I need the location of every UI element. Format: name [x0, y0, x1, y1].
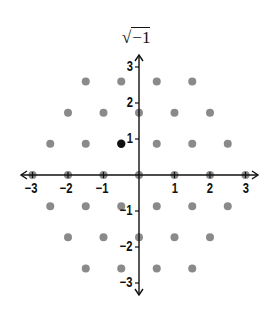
highlight-point-layer [117, 140, 125, 148]
axes [21, 55, 258, 295]
lattice-point [153, 265, 161, 273]
lattice-point [206, 109, 214, 117]
lattice-point [171, 233, 179, 241]
lattice-point [64, 233, 72, 241]
x-tick-label: −3 [24, 181, 37, 195]
lattice-point [153, 77, 161, 85]
x-tick-label: 3 [242, 181, 248, 195]
lattice-point [82, 265, 90, 273]
lattice-diagram: √−1 −3−2−1123321−1−2−3 [0, 0, 275, 318]
lattice-point [188, 202, 196, 210]
lattice-point [46, 202, 54, 210]
lattice-point [100, 109, 108, 117]
lattice-point [188, 265, 196, 273]
lattice-point [206, 233, 214, 241]
y-tick-label: 3 [127, 59, 133, 73]
lattice-point [153, 202, 161, 210]
highlight-point [117, 140, 125, 148]
x-tick-label: −1 [95, 181, 108, 195]
lattice-point [224, 140, 232, 148]
lattice-point [82, 202, 90, 210]
x-tick-label: 2 [207, 181, 213, 195]
x-tick-label: −2 [60, 181, 73, 195]
lattice-point [224, 202, 232, 210]
lattice-point [153, 140, 161, 148]
lattice-point [82, 77, 90, 85]
lattice-point [100, 233, 108, 241]
y-tick-label: 2 [127, 95, 133, 109]
lattice-point [117, 265, 125, 273]
lattice-point [82, 140, 90, 148]
lattice-point [46, 140, 54, 148]
complex-plane-plot [0, 0, 275, 318]
lattice-point [188, 77, 196, 85]
x-tick-label: 1 [171, 181, 177, 195]
y-tick-label: 1 [127, 131, 133, 145]
lattice-point [171, 109, 179, 117]
lattice-point [117, 77, 125, 85]
y-tick-label: −2 [120, 239, 133, 253]
lattice-point [188, 140, 196, 148]
y-tick-label: −3 [120, 275, 133, 289]
lattice-point [64, 109, 72, 117]
y-tick-label: −1 [120, 203, 133, 217]
